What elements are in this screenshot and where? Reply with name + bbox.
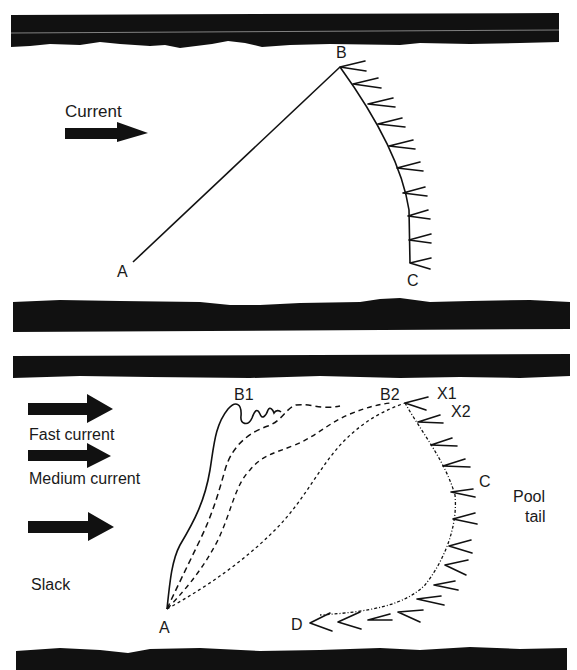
current-arrow-icon: [65, 122, 148, 142]
slack-current-arrow-icon: [28, 512, 114, 541]
point-x2-label: X2: [451, 403, 471, 420]
tail-label: tail: [525, 508, 545, 525]
point-a-label: A: [159, 619, 170, 636]
drift-arc-x1-d: [320, 403, 455, 615]
slack-label: Slack: [31, 576, 71, 593]
medium-current-label: Medium current: [29, 470, 141, 487]
top-panel: Current A B C: [11, 13, 570, 332]
point-b-label: B: [336, 44, 347, 61]
riverbank-bottom-lower: [16, 647, 567, 670]
line-a-b: [133, 67, 340, 262]
riverbank-top-lower: [13, 298, 570, 332]
pool-label: Pool: [513, 488, 545, 505]
point-c-label: C: [407, 272, 419, 289]
arc-b-c: [340, 67, 410, 263]
point-d-label: D: [291, 616, 303, 633]
bottom-panel: Fast current Medium current Slack: [13, 354, 570, 670]
point-a-label: A: [117, 263, 128, 280]
point-c-label: C: [479, 473, 491, 490]
fast-current-label: Fast current: [29, 426, 115, 443]
path-a-x1-dotted: [167, 403, 405, 609]
point-b1-label: B1: [234, 386, 254, 403]
drift-tick-marks-lower: [310, 397, 477, 631]
medium-current-arrow-icon: [28, 443, 111, 468]
fly-drift-diagram: Current A B C Fast current Medium curren…: [0, 0, 577, 670]
riverbank-bottom-upper: [13, 354, 570, 378]
fast-current-arrow-icon: [28, 394, 113, 423]
point-x1-label: X1: [437, 385, 457, 402]
point-b2-label: B2: [380, 386, 400, 403]
current-label: Current: [65, 102, 122, 121]
path-a-b1-solid: [167, 404, 281, 609]
drift-tick-marks: [340, 61, 431, 269]
